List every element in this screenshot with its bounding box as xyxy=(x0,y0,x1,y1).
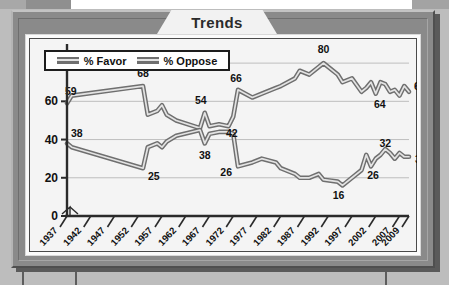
svg-text:0: 0 xyxy=(51,209,58,223)
svg-text:20: 20 xyxy=(45,171,59,185)
svg-text:40: 40 xyxy=(45,133,59,147)
backdrop-top-right-block xyxy=(412,0,449,9)
legend-item-oppose[interactable]: % Oppose xyxy=(137,55,218,67)
chart-legend: % Favor % Oppose xyxy=(44,50,230,71)
svg-text:60: 60 xyxy=(45,94,59,108)
backdrop-vertical-rule-right xyxy=(385,272,387,285)
page-title: Trends xyxy=(157,11,277,33)
legend-label-favor: % Favor xyxy=(84,55,127,67)
backdrop-top-left-block xyxy=(0,0,26,9)
backdrop-top-second-block xyxy=(26,0,71,9)
svg-text:38: 38 xyxy=(71,127,83,139)
svg-text:66: 66 xyxy=(230,72,242,84)
svg-text:65: 65 xyxy=(414,80,417,92)
backdrop-vertical-rule-mid xyxy=(75,272,77,285)
svg-text:31: 31 xyxy=(415,153,417,165)
legend-swatch-favor-icon xyxy=(57,57,79,64)
svg-text:32: 32 xyxy=(379,137,391,149)
svg-text:38: 38 xyxy=(199,149,211,161)
svg-text:26: 26 xyxy=(220,166,232,178)
svg-text:80: 80 xyxy=(318,43,330,55)
svg-text:16: 16 xyxy=(333,189,345,201)
svg-text:64: 64 xyxy=(374,98,386,110)
legend-label-oppose: % Oppose xyxy=(164,55,218,67)
legend-item-favor[interactable]: % Favor xyxy=(57,55,127,67)
svg-text:25: 25 xyxy=(148,170,160,182)
svg-text:26: 26 xyxy=(367,169,379,181)
svg-text:42: 42 xyxy=(226,127,238,139)
legend-swatch-oppose-icon xyxy=(137,57,159,64)
backdrop-vertical-rule-left xyxy=(22,272,24,285)
svg-text:54: 54 xyxy=(195,94,207,106)
